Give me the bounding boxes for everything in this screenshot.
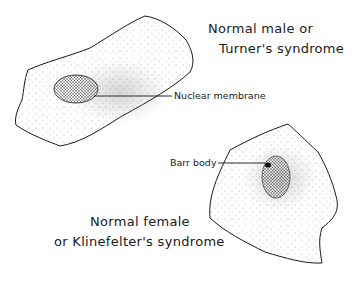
male-nucleus — [54, 75, 98, 103]
male-cell — [15, 16, 193, 146]
barr-body-label: Barr body — [170, 157, 217, 168]
nuclear-membrane-label: Nuclear membrane — [174, 90, 266, 101]
male-caption-line2: Turner's syndrome — [219, 41, 344, 56]
female-caption-line1: Normal female — [90, 214, 190, 229]
female-cell — [210, 124, 338, 263]
female-caption-line2: or Klinefelter's syndrome — [54, 234, 225, 249]
barr-body — [265, 163, 271, 168]
male-caption-line1: Normal male or — [208, 21, 313, 36]
female-nucleus — [262, 156, 290, 198]
